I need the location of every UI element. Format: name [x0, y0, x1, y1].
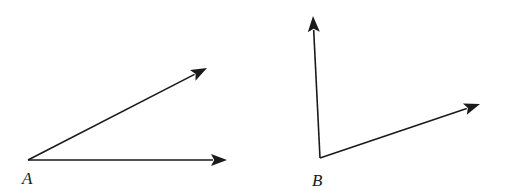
right-ray-line — [320, 108, 467, 158]
angle-diagram — [0, 0, 508, 191]
vertex-label-b: B — [312, 172, 322, 189]
vertical-ray-line — [314, 30, 320, 158]
horizontal-ray-arrowhead-icon — [211, 154, 227, 166]
upper-ray-line — [28, 74, 195, 160]
angle-b-figure — [308, 16, 480, 158]
upper-ray-arrowhead-icon — [190, 68, 207, 81]
vertex-label-a: A — [22, 170, 32, 187]
vertical-ray-arrowhead-icon — [308, 16, 320, 32]
angle-a-figure — [28, 68, 227, 166]
